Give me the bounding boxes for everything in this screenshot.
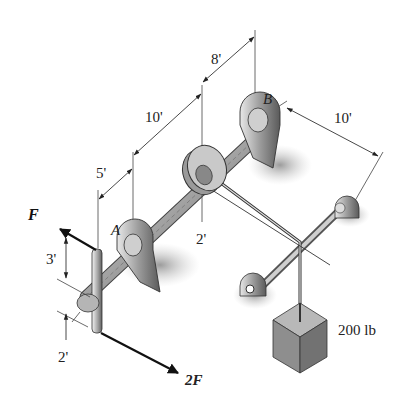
- force-label-2f: 2F: [184, 372, 203, 388]
- dim-label-2ft-crank: 2': [58, 349, 69, 365]
- label-b: B: [263, 91, 272, 107]
- dim-label-2ft-pulley: 2': [196, 231, 207, 247]
- force-label-f: F: [27, 206, 39, 223]
- bearing-b: [240, 92, 280, 168]
- weight-label: 200 lb: [338, 322, 376, 338]
- mechanics-diagram: 5' 10' 8' 10' 200 lb: [0, 0, 410, 399]
- pulley: [176, 140, 232, 200]
- weight-block: [273, 303, 327, 373]
- dim-label-5ft: 5': [96, 165, 107, 181]
- dim-label-3ft: 3': [46, 251, 57, 267]
- dim-label-10ft-right: 10': [334, 110, 352, 126]
- label-a: A: [110, 222, 121, 238]
- dim-label-8ft: 8': [211, 51, 222, 67]
- dim-label-10ft: 10': [145, 109, 163, 125]
